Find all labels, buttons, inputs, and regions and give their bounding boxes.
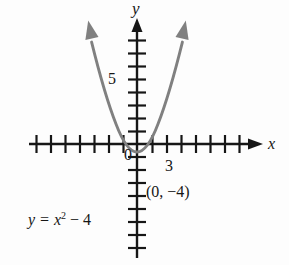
equation-prefix: y = x xyxy=(28,211,61,228)
graph-figure: y x 5 0 3 (0, −4) y = x2 − 4 xyxy=(0,0,289,265)
y-axis xyxy=(128,18,146,258)
x-axis xyxy=(29,135,263,153)
x-tick-label-3: 3 xyxy=(165,158,173,174)
y-tick-label-5: 5 xyxy=(108,71,116,87)
x-axis-label: x xyxy=(268,136,275,152)
equation-label: y = x2 − 4 xyxy=(28,212,91,228)
equation-suffix: − 4 xyxy=(66,211,91,228)
vertex-point-label: (0, −4) xyxy=(146,184,190,200)
curve-arrowhead-left xyxy=(85,21,98,41)
y-axis-label: y xyxy=(132,0,140,17)
origin-label: 0 xyxy=(124,147,132,163)
curve-arrowhead-right xyxy=(176,21,189,41)
